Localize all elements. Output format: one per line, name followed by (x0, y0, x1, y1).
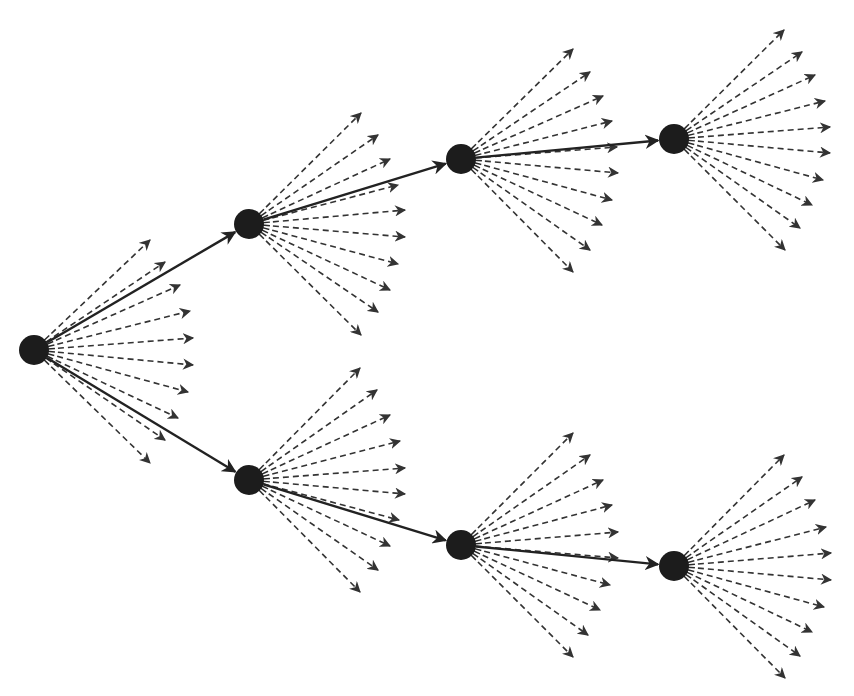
fan-top-1 (258, 113, 405, 335)
node-top-1 (234, 209, 264, 239)
dashed-arrow (481, 72, 590, 146)
dashed-arrow (266, 241, 361, 335)
node-root (19, 335, 49, 365)
dashed-arrow (694, 477, 802, 552)
dashed-arrow (696, 500, 815, 556)
dashed-arrow-fans (43, 30, 831, 678)
dashed-arrow (694, 153, 800, 228)
dashed-arrow (266, 497, 360, 592)
node-bottom-3 (659, 551, 689, 581)
dashed-arrow (54, 364, 165, 440)
dashed-arrow (484, 165, 612, 200)
node-top-3 (659, 124, 689, 154)
fan-bottom-1 (258, 368, 405, 592)
dashed-arrow (691, 583, 785, 678)
fan-top-2 (470, 49, 618, 272)
dashed-arrow (697, 572, 824, 607)
dashed-arrow (697, 145, 823, 180)
fan-bottom-3 (683, 455, 831, 678)
fan-top-3 (683, 30, 830, 250)
dashed-arrow (484, 121, 612, 153)
dashed-arrow (269, 238, 378, 312)
dashed-arrow (271, 234, 390, 290)
dashed-arrow (484, 551, 610, 585)
dashed-arrow (478, 49, 573, 142)
dashed-arrow (697, 527, 826, 560)
dashed-arrow (691, 30, 784, 122)
dashed-arrow (266, 368, 360, 463)
dashed-arrow (272, 486, 399, 520)
dashed-arrow (694, 580, 800, 656)
dashed-arrow (51, 240, 150, 333)
dashed-arrow (51, 367, 150, 463)
dashed-arrow (478, 176, 573, 272)
dashed-arrow (481, 559, 588, 635)
dashed-arrow (269, 390, 377, 466)
fan-bottom-2 (470, 433, 618, 657)
dashed-arrow (478, 562, 573, 657)
fan-root (43, 240, 193, 463)
dashed-arrow (57, 356, 188, 392)
node-bottom-2 (446, 530, 476, 560)
branching-tree-diagram (0, 0, 854, 696)
dashed-arrow (691, 455, 784, 549)
dashed-arrow (691, 156, 785, 250)
dashed-arrow (484, 505, 612, 539)
dashed-arrow (272, 230, 398, 264)
node-bottom-1 (234, 465, 264, 495)
edge-bottom-1-to-bottom-2 (263, 484, 445, 540)
dashed-arrow (272, 185, 398, 218)
dashed-arrow (58, 352, 193, 365)
edge-top-2-to-top-3 (476, 140, 658, 157)
dashed-arrow (697, 101, 825, 133)
dashed-arrow (481, 455, 590, 531)
dashed-arrow (272, 441, 400, 474)
dashed-arrow (269, 494, 378, 570)
dashed-arrow (694, 52, 802, 126)
edge-top-1-to-top-2 (263, 164, 445, 220)
dashed-arrow (269, 135, 378, 210)
edge-bottom-2-to-bottom-3 (476, 546, 658, 564)
node-top-2 (446, 144, 476, 174)
main-path-edges (47, 140, 658, 564)
dashed-arrow (478, 433, 573, 528)
